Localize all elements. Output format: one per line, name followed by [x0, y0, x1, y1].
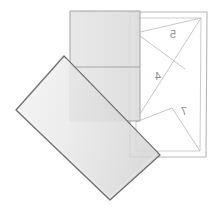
folded-paper-svg: 5 4 7 — [0, 0, 217, 210]
numeral-5: 5 — [170, 28, 176, 40]
page-inner-frame — [136, 18, 201, 151]
numeral-7: 7 — [181, 105, 187, 117]
numeral-4: 4 — [155, 70, 161, 82]
diagram-canvas: 5 4 7 — [0, 0, 217, 210]
